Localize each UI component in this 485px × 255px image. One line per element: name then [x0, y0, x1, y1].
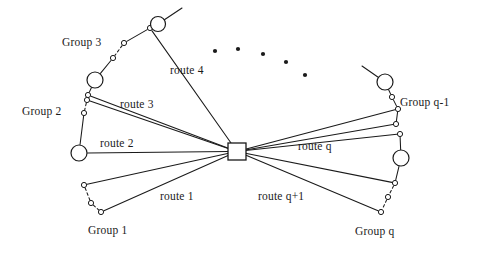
node-group-3-3-small: [110, 55, 115, 60]
intra-link-group-q-1-0: [389, 90, 391, 94]
node-group-q-1-large: [393, 150, 409, 166]
route-spoke-group-2-1: [88, 152, 229, 153]
node-group-2-1-small: [81, 110, 86, 115]
node-group-3-1-large: [151, 17, 166, 32]
intra-link-group-2-1: [80, 116, 84, 144]
node-group-1-1-small: [88, 200, 93, 205]
intra-link-group-q-1-1: [393, 100, 396, 106]
route-label-route-1: route 1: [160, 190, 194, 202]
group-label-group-3: Group 3: [62, 36, 101, 48]
group-label-group-q-1: Group q-1: [400, 96, 449, 108]
route-spoke-group-q-1: [245, 153, 391, 182]
intra-group-links-layer: [80, 27, 401, 210]
node-group-2-0-small: [84, 97, 89, 102]
intra-link-group-q-3: [382, 200, 386, 209]
node-group-q-4-small: [378, 209, 383, 214]
node-group-1-0-small: [81, 182, 86, 187]
route-spoke-group-1-0: [87, 153, 229, 184]
node-group-3-2-small: [121, 40, 126, 45]
intra-link-group-q-1-2: [396, 112, 397, 121]
route-spoke-group-1-1: [104, 155, 229, 211]
route-spokes-layer: [87, 31, 397, 211]
group-label-group-q: Group q: [355, 225, 394, 237]
group-label-group-2: Group 2: [22, 105, 61, 117]
ellipsis-dot-2: [236, 47, 240, 51]
depot-layer: [228, 143, 246, 160]
ellipsis-dot-3: [261, 52, 265, 56]
routing-network-diagram: Group 3Group 2Group 1Group qGroup q-1rou…: [0, 0, 485, 255]
intra-link-group-1-0: [85, 188, 90, 200]
route-label-route-4: route 4: [170, 64, 204, 76]
group-label-group-1: Group 1: [88, 224, 127, 236]
intra-link-group-3-3: [100, 60, 111, 73]
node-group-q-0-small: [397, 131, 402, 136]
route-label-route-2: route 2: [100, 137, 134, 149]
route-label-route-3: route 3: [120, 98, 154, 110]
ellipsis-dot-4: [284, 60, 288, 64]
intra-link-group-3-4: [89, 88, 91, 92]
intra-link-group-2-0: [85, 103, 87, 110]
ellipsis-dot-1: [213, 49, 217, 53]
intra-link-group-3-2: [115, 46, 122, 56]
node-group-2-2-large: [71, 145, 87, 161]
intra-link-group-q-2: [389, 186, 393, 194]
route-label-route-q: route q: [298, 140, 332, 152]
depot-square: [228, 143, 246, 160]
node-group-q-1-1-small: [389, 94, 394, 99]
node-group-q-1-0-large: [377, 74, 393, 90]
ellipsis-dot-5: [303, 73, 307, 77]
route-spoke-group-3-0: [152, 31, 232, 145]
intra-link-group-q-1: [396, 166, 399, 180]
node-group-q-1-3-small: [393, 121, 398, 126]
node-group-q-2-small: [392, 180, 397, 185]
node-group-1-2-small: [98, 209, 103, 214]
intra-link-group-q-0: [400, 137, 401, 149]
node-group-3-4-large: [87, 72, 103, 88]
route-label-route-q-1: route q+1: [258, 190, 304, 202]
node-group-q-3-small: [385, 194, 390, 199]
node-group-3-5-small: [85, 92, 90, 97]
intra-link-group-1-1: [93, 205, 98, 210]
route-spoke-group-q-2: [245, 155, 378, 211]
ellipsis-dots-layer: [213, 47, 307, 77]
intra-link-group-3-1: [127, 30, 147, 42]
